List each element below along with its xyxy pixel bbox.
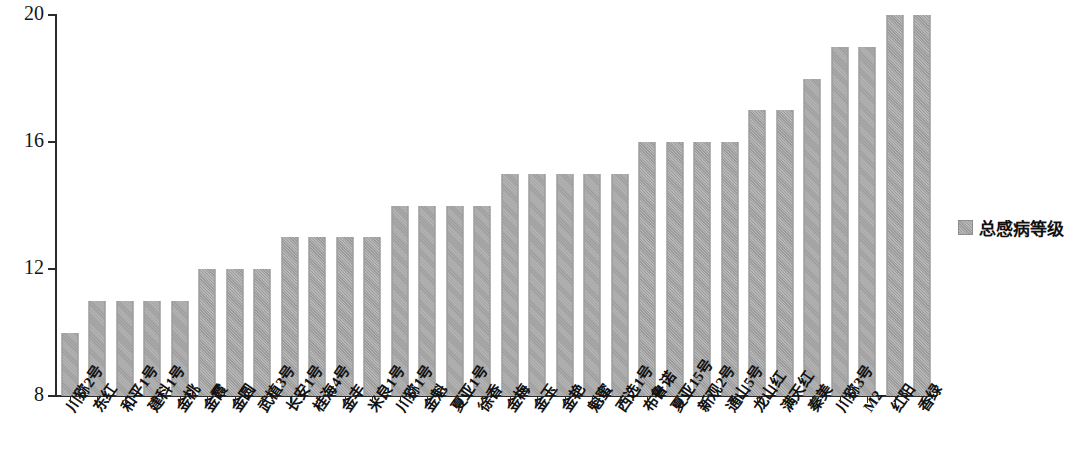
- bar-slot: [496, 15, 524, 396]
- x-axis-tick: [730, 396, 731, 403]
- bar[interactable]: [556, 174, 573, 396]
- bar-slot: [579, 15, 607, 396]
- x-axis-tick: [207, 396, 208, 403]
- y-axis-tick: [48, 14, 56, 16]
- bar-slot: [331, 15, 359, 396]
- y-axis-tick: [48, 268, 56, 270]
- x-axis-tick: [400, 396, 401, 403]
- bar-slot: [111, 15, 139, 396]
- bar-slot: [524, 15, 552, 396]
- bar[interactable]: [254, 269, 271, 396]
- bar-slot: [799, 15, 827, 396]
- x-axis-tick: [455, 396, 456, 403]
- y-axis-tick: [48, 141, 56, 143]
- bar[interactable]: [529, 174, 546, 396]
- x-axis-tick: [290, 396, 291, 403]
- x-axis-tick: [895, 396, 896, 403]
- bar-slot: [304, 15, 332, 396]
- x-axis-tick: [427, 396, 428, 403]
- y-axis-tick-label: 12: [0, 256, 44, 279]
- bar-slot: [84, 15, 112, 396]
- bar-slot: [276, 15, 304, 396]
- x-axis-tick: [702, 396, 703, 403]
- bar-chart: 8121620 川猕2号东红和平1号建科1号金桃金霞金圆武植3号长安1号桂海4号…: [0, 0, 1086, 463]
- bar-slot: [909, 15, 937, 396]
- bar[interactable]: [776, 110, 793, 396]
- bar-slot: [854, 15, 882, 396]
- y-axis-tick-label: 16: [0, 129, 44, 152]
- x-axis-tick: [812, 396, 813, 403]
- bar-slot: [716, 15, 744, 396]
- x-axis-tick: [482, 396, 483, 403]
- bar-slot: [221, 15, 249, 396]
- chart-legend: 总感病等级: [958, 215, 1064, 240]
- x-axis-tick: [510, 396, 511, 403]
- x-axis-tick: [675, 396, 676, 403]
- bar-slot: [441, 15, 469, 396]
- bar[interactable]: [584, 174, 601, 396]
- x-axis-tick: [372, 396, 373, 403]
- x-axis-tick: [592, 396, 593, 403]
- bar[interactable]: [749, 110, 766, 396]
- bar[interactable]: [116, 301, 133, 396]
- x-axis-tick: [180, 396, 181, 403]
- legend-item-label: 总感病等级: [979, 215, 1064, 240]
- y-axis-labels: 8121620: [0, 0, 46, 463]
- bar-slot: [551, 15, 579, 396]
- bar-slot: [689, 15, 717, 396]
- legend-swatch-icon: [958, 220, 973, 235]
- x-axis-tick: [620, 396, 621, 403]
- bar-slot: [661, 15, 689, 396]
- x-axis-tick: [345, 396, 346, 403]
- bar-slot: [359, 15, 387, 396]
- bar-slot: [56, 15, 84, 396]
- bar-slot: [249, 15, 277, 396]
- x-axis-tick: [235, 396, 236, 403]
- bar[interactable]: [446, 206, 463, 397]
- bar[interactable]: [666, 142, 683, 396]
- bar-slot: [386, 15, 414, 396]
- y-axis-tick: [48, 395, 56, 397]
- bar-slot: [139, 15, 167, 396]
- x-axis-tick: [125, 396, 126, 403]
- bar[interactable]: [721, 142, 738, 396]
- x-axis-tick: [757, 396, 758, 403]
- bar-slot: [634, 15, 662, 396]
- bar[interactable]: [364, 237, 381, 396]
- bar-slot: [826, 15, 854, 396]
- y-axis-tick-label: 20: [0, 2, 44, 25]
- x-axis-tick: [867, 396, 868, 403]
- bar-slot: [606, 15, 634, 396]
- bar[interactable]: [886, 15, 903, 396]
- bar[interactable]: [914, 15, 931, 396]
- x-axis-labels: 川猕2号东红和平1号建科1号金桃金霞金圆武植3号长安1号桂海4号金丰米良1号川猕…: [0, 396, 1086, 463]
- bars-container: [56, 15, 936, 396]
- bar[interactable]: [199, 269, 216, 396]
- x-axis-tick: [785, 396, 786, 403]
- x-axis-tick: [537, 396, 538, 403]
- bar-slot: [881, 15, 909, 396]
- bar[interactable]: [804, 79, 821, 397]
- x-axis-tick: [97, 396, 98, 403]
- x-axis-tick: [840, 396, 841, 403]
- bar[interactable]: [611, 174, 628, 396]
- bar[interactable]: [859, 47, 876, 396]
- x-axis-tick: [70, 396, 71, 403]
- bar[interactable]: [639, 142, 656, 396]
- bar-slot: [771, 15, 799, 396]
- x-axis-tick: [262, 396, 263, 403]
- bar-slot: [414, 15, 442, 396]
- bar-slot: [166, 15, 194, 396]
- bar-slot: [744, 15, 772, 396]
- x-axis-tick: [317, 396, 318, 403]
- bar[interactable]: [831, 47, 848, 396]
- x-axis-tick: [565, 396, 566, 403]
- x-axis-tick: [152, 396, 153, 403]
- bar[interactable]: [226, 269, 243, 396]
- bar-slot: [194, 15, 222, 396]
- bar[interactable]: [501, 174, 518, 396]
- x-axis-tick: [647, 396, 648, 403]
- x-axis-tick: [922, 396, 923, 403]
- bar-slot: [469, 15, 497, 396]
